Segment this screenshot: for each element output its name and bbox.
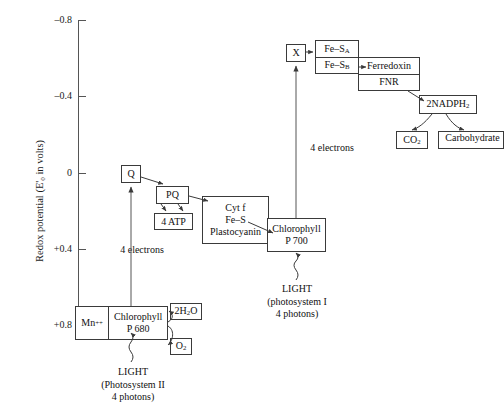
box-q: Q xyxy=(121,165,141,183)
y-axis-title-tail: in volts) xyxy=(34,140,45,177)
cytf-line-3: Plastocyanin xyxy=(210,226,261,238)
cytf-line-2: Fe–S xyxy=(225,214,246,226)
nadph-label: 2NADPH2 xyxy=(427,98,470,111)
cytf-line-1: Cyt f xyxy=(225,202,245,214)
manganese-label: Mn xyxy=(81,317,95,329)
fnr-label: FNR xyxy=(379,76,398,88)
box-chlorophyll-p680: Chlorophyll P 680 xyxy=(109,307,167,339)
arrow-nadph-to-carbohydrate xyxy=(446,114,464,130)
light-psii-caption: LIGHT (Photosystem II 4 photons) xyxy=(78,366,188,404)
oxygen-label: O2 xyxy=(176,340,187,353)
box-chlorophyll-p700: Chlorophyll P 700 xyxy=(267,218,326,252)
arrow-q-to-pq xyxy=(141,177,163,184)
box-water: 2H2O xyxy=(170,303,202,320)
light-psii-line-1: LIGHT xyxy=(78,366,188,379)
pq-label: PQ xyxy=(166,189,179,201)
ferredoxin-row: Ferredoxin xyxy=(359,58,419,75)
manganese-charge: ++ xyxy=(95,319,103,327)
light-psi-line-2: (photosystem I xyxy=(241,296,353,309)
fe-s-a-pre: Fe–S xyxy=(324,43,345,54)
box-ferredoxin-fnr: Ferredoxin FNR xyxy=(358,57,420,91)
nadph-pre: 2NADPH xyxy=(427,98,466,109)
axis-tick-2 xyxy=(78,173,86,174)
p680-line-1: Chlorophyll xyxy=(114,311,162,323)
box-manganese: Mn++ xyxy=(76,307,109,339)
p700-line-1: Chlorophyll xyxy=(272,223,320,235)
electrons-psi-text: 4 electrons xyxy=(310,142,354,153)
electrons-psii-text: 4 electrons xyxy=(120,244,164,255)
light-psii-line-2: (Photosystem II xyxy=(78,379,188,392)
fe-s-b-label: Fe–SB xyxy=(324,59,349,72)
light-psii-line-3: 4 photons) xyxy=(78,391,188,404)
axis-tick-label-1: –0.4 xyxy=(30,90,72,101)
electrons-psi-label: 4 electrons xyxy=(294,142,370,155)
box-pq: PQ xyxy=(156,186,189,204)
box-psii-complex: Mn++ Chlorophyll P 680 xyxy=(75,306,168,340)
water-post: O xyxy=(190,305,197,316)
co2-sub: 2 xyxy=(417,138,420,145)
carbohydrate-label: Carbohydrate xyxy=(442,132,499,144)
nadph-sub: 2 xyxy=(466,103,469,110)
fe-s-a-label: Fe–SA xyxy=(324,43,349,56)
box-iron-sulfur-centers: Fe–SA Fe–SB xyxy=(315,40,359,74)
water-label: 2H2O xyxy=(175,305,198,318)
y-axis-title-main: Redox potential (E' xyxy=(34,181,45,262)
atp-label: 4 ATP xyxy=(161,216,186,228)
axis-tick-label-0: –0.8 xyxy=(30,14,72,25)
water-pre: 2H xyxy=(175,305,187,316)
box-co2: CO2 xyxy=(396,131,428,149)
light-psi-line-3: 4 photons) xyxy=(241,308,353,321)
box-oxygen: O2 xyxy=(170,338,192,355)
arrow-nadph-to-co2 xyxy=(412,114,432,130)
box-atp: 4 ATP xyxy=(154,213,193,230)
fe-s-a-row: Fe–SA xyxy=(316,41,358,58)
q-label: Q xyxy=(127,168,134,180)
light-psi-caption: LIGHT (photosystem I 4 photons) xyxy=(241,283,353,321)
oxygen-sub: 2 xyxy=(183,345,186,352)
oxygen-pre: O xyxy=(176,340,183,351)
arrow-pq-to-atp-2 xyxy=(178,204,183,211)
box-x: X xyxy=(286,44,306,62)
p700-line-2: P 700 xyxy=(285,235,308,247)
axis-tick-1 xyxy=(78,96,86,97)
axis-tick-0 xyxy=(78,20,86,21)
box-nadph: 2NADPH2 xyxy=(419,95,477,114)
ferredoxin-label: Ferredoxin xyxy=(367,60,411,72)
arrow-pq-to-atp-1 xyxy=(161,204,166,211)
fnr-row: FNR xyxy=(359,75,419,91)
box-cytf-complex: Cyt f Fe–S Plastocyanin xyxy=(202,196,269,244)
x-label: X xyxy=(292,47,299,59)
axis-tick-label-4: +0.8 xyxy=(30,319,72,330)
y-axis-title: Redox potential (E'0 in volts) xyxy=(34,140,47,262)
fe-s-b-row: Fe–SB xyxy=(316,58,358,74)
fe-s-b-pre: Fe–S xyxy=(324,59,345,70)
light-squiggle-psi xyxy=(294,253,298,280)
box-carbohydrate: Carbohydrate xyxy=(438,131,504,149)
co2-label: CO2 xyxy=(403,134,420,147)
axis-tick-3 xyxy=(78,249,86,250)
fe-s-b-sub: B xyxy=(345,63,350,70)
y-axis-title-subscript: 0 xyxy=(39,177,47,181)
fe-s-a-sub: A xyxy=(345,47,350,54)
p680-line-2: P 680 xyxy=(127,323,150,335)
electrons-psii-label: 4 electrons xyxy=(104,244,180,257)
co2-pre: CO xyxy=(403,134,417,145)
light-psi-line-1: LIGHT xyxy=(241,283,353,296)
